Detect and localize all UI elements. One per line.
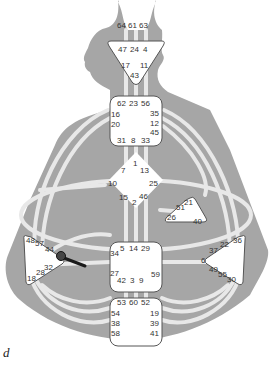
gate: 21 [184,198,193,207]
gate: 54 [111,309,120,318]
gate: 41 [150,329,159,338]
gate: 43 [130,71,139,80]
gate: 1 [133,159,138,168]
gate: 35 [150,109,159,118]
gate: 36 [233,236,242,245]
gate: 61 [128,21,137,30]
gate: 52 [141,298,150,307]
gate: 2 [132,198,137,207]
gate: 37 [209,246,218,255]
gate: 60 [129,298,138,307]
gate: 57 [35,239,44,248]
gate: 14 [129,244,138,253]
gate: 11 [140,61,149,70]
activation-node-icon [57,252,66,261]
gate: 63 [139,21,148,30]
gate: 7 [121,166,126,175]
gate: 8 [131,136,136,145]
gate: 64 [117,21,126,30]
gate: 12 [150,119,159,128]
gate: 23 [129,99,138,108]
gate: 4 [143,45,148,54]
gate: 25 [149,179,158,188]
gate: 62 [117,99,126,108]
gate: 20 [111,120,120,129]
gate: 26 [167,213,176,222]
gate: 18 [27,274,36,283]
gate: 15 [119,193,128,202]
gate: 42 [117,276,126,285]
gate: 29 [141,244,150,253]
gate: 22 [220,240,229,249]
gate: 45 [150,128,159,137]
gate: 3 [130,276,135,285]
gate: 28 [36,268,45,277]
gate: 46 [139,192,148,201]
gate: 32 [44,263,53,272]
gate: 6 [201,256,206,265]
gate: 17 [121,61,130,70]
caption-text: d [3,345,10,361]
gate: 30 [227,275,236,284]
gate: 40 [193,217,202,226]
gate: 56 [141,99,150,108]
gate: 34 [110,249,119,258]
gate: 53 [117,298,126,307]
gate: 16 [111,110,120,119]
bodygraph: 64 61 63 47 24 4 17 11 43 62 23 56 16 35… [0,0,273,365]
gate: 51 [176,203,185,212]
gate: 31 [117,136,126,145]
gate: 39 [150,319,159,328]
gate: 58 [111,329,120,338]
gate: 59 [151,270,160,279]
gate: 44 [45,245,54,254]
gate: 10 [108,179,117,188]
gate: 13 [140,166,149,175]
gate: 47 [118,45,127,54]
gate: 33 [141,136,150,145]
gate: 5 [120,244,125,253]
gate: 9 [139,276,144,285]
gate: 24 [130,45,139,54]
gate: 38 [111,319,120,328]
gate: 19 [150,309,159,318]
